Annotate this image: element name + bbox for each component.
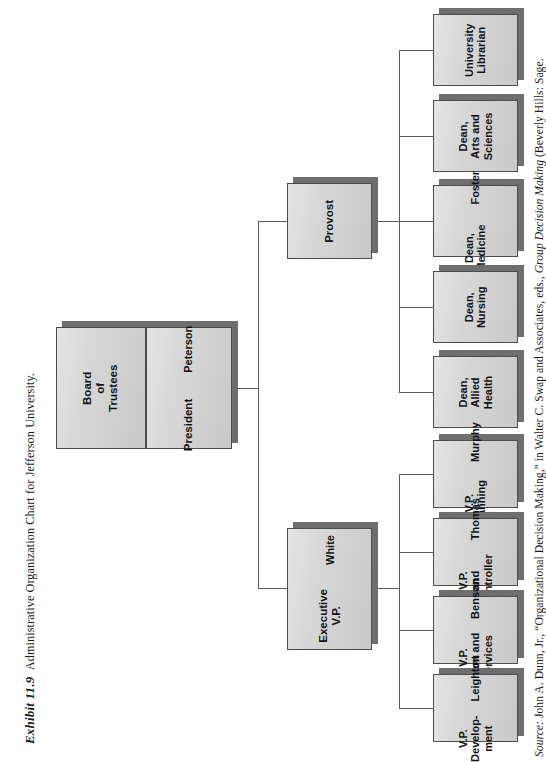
box-face: President Peterson bbox=[146, 327, 232, 449]
node-dean-arts-and-sciences[interactable]: Dean,Arts andSciences bbox=[433, 100, 518, 172]
source-note: Source: John A. Dunn, Jr., “Organization… bbox=[533, 58, 546, 757]
node-title: ExecutiveV.P. bbox=[317, 589, 343, 643]
node-person: Benson bbox=[469, 578, 481, 618]
box-face: Dean,AlliedHealth bbox=[433, 356, 518, 428]
box-face: V.P.Plant andServices Benson bbox=[433, 596, 518, 664]
box-face: BoardofTrustees bbox=[56, 327, 146, 449]
node-label-group: Dean,Arts andSciences bbox=[457, 112, 494, 160]
connector-rail-vp-dev bbox=[399, 708, 433, 709]
box-face: Dean,Medicine Foster bbox=[433, 185, 518, 257]
node-dean-nursing[interactable]: Dean,Nursing bbox=[433, 271, 518, 343]
node-label-group: UniversityLibrarian bbox=[463, 23, 488, 76]
node-title: President bbox=[183, 398, 196, 450]
node-title: Dean,Nursing bbox=[463, 286, 488, 328]
node-label-group: V.P.Develop-ment Leighton bbox=[457, 655, 494, 762]
exhibit-title: Administrative Organization Chart for Je… bbox=[23, 373, 37, 670]
node-vp-and-controller[interactable]: V.P.andController Thomas bbox=[433, 518, 518, 586]
node-title: BoardofTrustees bbox=[82, 364, 121, 411]
connector-trunk-provost bbox=[258, 221, 288, 222]
node-university-librarian[interactable]: UniversityLibrarian bbox=[433, 14, 518, 86]
node-title: Dean,Arts andSciences bbox=[457, 112, 494, 160]
box-face: UniversityLibrarian bbox=[433, 14, 518, 86]
box-face: Provost bbox=[287, 183, 372, 259]
node-title: V.P.Develop-ment bbox=[457, 715, 494, 761]
node-person: White bbox=[323, 535, 335, 565]
node-label-group: BoardofTrustees bbox=[82, 364, 121, 411]
source-prefix: John A. Dunn, Jr., “Organizational Decis… bbox=[533, 273, 546, 721]
connector-rail-vp-plant bbox=[399, 630, 433, 631]
node-title: Dean,AlliedHealth bbox=[457, 375, 494, 409]
node-person: Peterson bbox=[183, 325, 195, 372]
connector-rail-dean-med bbox=[399, 221, 433, 222]
node-person: Murphy bbox=[469, 422, 481, 462]
node-provost[interactable]: Provost bbox=[287, 183, 372, 259]
source-suffix: (Beverly Hills: Sage. bbox=[533, 58, 546, 160]
node-dean-allied-health[interactable]: Dean,AlliedHealth bbox=[433, 356, 518, 428]
node-label-group: Dean,Nursing bbox=[463, 286, 488, 328]
exhibit-number: Exhibit 11.9 bbox=[22, 677, 37, 744]
rail-execvp bbox=[399, 474, 400, 708]
connector-trunk-vertical bbox=[258, 221, 259, 588]
node-person: Leighton bbox=[469, 655, 481, 701]
node-person: Foster bbox=[469, 171, 481, 205]
node-label-group: President Peterson bbox=[183, 325, 196, 451]
node-vp-plant-and-services[interactable]: V.P.Plant andServices Benson bbox=[433, 596, 518, 664]
node-label-group: Dean,AlliedHealth bbox=[457, 375, 494, 409]
connector-rail-dean-arts bbox=[399, 136, 433, 137]
connector-rail-dean-nursing bbox=[399, 307, 433, 308]
node-vp-development[interactable]: V.P.Develop-ment Leighton bbox=[433, 674, 518, 742]
node-title: UniversityLibrarian bbox=[463, 23, 488, 76]
source-label: Source: bbox=[533, 721, 546, 757]
box-face: Dean,Nursing bbox=[433, 271, 518, 343]
connector-trunk-execvp bbox=[258, 588, 288, 589]
node-board-of-trustees[interactable]: BoardofTrustees bbox=[56, 327, 146, 449]
node-title: Provost bbox=[323, 200, 336, 243]
connector-rail-vp-ctrl bbox=[399, 552, 433, 553]
node-label-group: Dean,Medicine Foster bbox=[463, 171, 488, 272]
box-face: ExecutiveV.P. White bbox=[287, 528, 372, 650]
node-person: Thomas bbox=[469, 498, 481, 540]
node-label-group: ExecutiveV.P. White bbox=[317, 535, 343, 643]
exhibit-caption: Exhibit 11.9 Administrative Organization… bbox=[22, 373, 38, 744]
box-face: Dean,Arts andSciences bbox=[433, 100, 518, 172]
box-face: V.P.andController Thomas bbox=[433, 518, 518, 586]
node-dean-medicine[interactable]: Dean,Medicine Foster bbox=[433, 185, 518, 257]
box-face: V.P.Develop-ment Leighton bbox=[433, 674, 518, 742]
source-italic-title: Group Decision Making bbox=[533, 160, 546, 273]
connector-rail-librarian bbox=[399, 50, 433, 51]
node-executive-vp[interactable]: ExecutiveV.P. White bbox=[287, 528, 372, 650]
node-president[interactable]: President Peterson bbox=[146, 327, 232, 449]
connector-rail-vp-plan bbox=[399, 474, 433, 475]
node-label-group: Provost bbox=[323, 200, 336, 243]
connector-rail-dean-allied bbox=[399, 392, 433, 393]
